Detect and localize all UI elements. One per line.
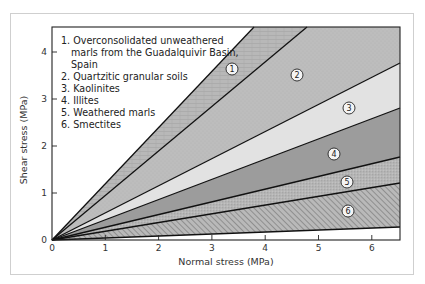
legend-line: marls from the Guadalquivir Basin,: [71, 47, 239, 58]
legend-line: 4. Illites: [61, 95, 99, 106]
x-tick-label: 1: [102, 243, 108, 253]
x-tick-label: 3: [209, 243, 215, 253]
svg-text:5: 5: [344, 178, 349, 187]
svg-text:6: 6: [345, 207, 350, 216]
svg-text:3: 3: [346, 104, 351, 113]
legend-line: 1. Overconsolidated unweathered: [61, 35, 224, 46]
svg-text:1: 1: [229, 65, 234, 74]
x-tick-label: 6: [369, 243, 375, 253]
y-tick-label: 0: [41, 235, 47, 245]
x-tick-label: 2: [156, 243, 162, 253]
chart-svg: 0 1 2 3 4 5 6 0 1 2 3 4 Normal stress (M…: [0, 0, 425, 284]
x-tick-label: 0: [49, 243, 55, 253]
legend-line: 6. Smectites: [61, 119, 121, 130]
region-label-5: 5: [341, 176, 353, 188]
y-axis-label: Shear stress (MPa): [18, 96, 29, 185]
x-tick-label: 5: [316, 243, 322, 253]
region-label-6: 6: [342, 205, 354, 217]
region-label-2: 2: [291, 69, 303, 81]
y-tick-label: 2: [41, 141, 47, 151]
svg-text:2: 2: [294, 71, 299, 80]
x-tick-label: 4: [262, 243, 268, 253]
region-label-1: 1: [226, 63, 238, 75]
legend-line: 5. Weathered marls: [61, 107, 155, 118]
x-axis-label: Normal stress (MPa): [178, 256, 273, 267]
y-tick-label: 1: [41, 188, 47, 198]
region-label-4: 4: [328, 148, 340, 160]
legend-line: 2. Quartzitic granular soils: [61, 71, 188, 82]
legend-line: 3. Kaolinites: [61, 83, 120, 94]
svg-text:4: 4: [331, 150, 336, 159]
chart-container: 0 1 2 3 4 5 6 0 1 2 3 4 Normal stress (M…: [0, 0, 425, 284]
legend-line: Spain: [71, 59, 98, 70]
y-tick-label: 4: [41, 47, 47, 57]
y-tick-label: 3: [41, 94, 47, 104]
region-label-3: 3: [343, 102, 355, 114]
